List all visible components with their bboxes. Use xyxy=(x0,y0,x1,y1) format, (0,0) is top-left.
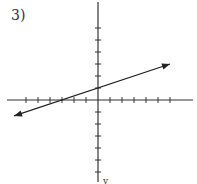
axes xyxy=(7,2,193,182)
line-segment xyxy=(14,64,170,116)
graphed-line xyxy=(14,63,170,116)
coordinate-plane xyxy=(0,0,197,184)
arrowhead-icon xyxy=(161,63,170,69)
axis-label: y xyxy=(103,176,108,184)
arrowhead-icon xyxy=(14,110,23,116)
problem-number: 3) xyxy=(11,7,25,23)
